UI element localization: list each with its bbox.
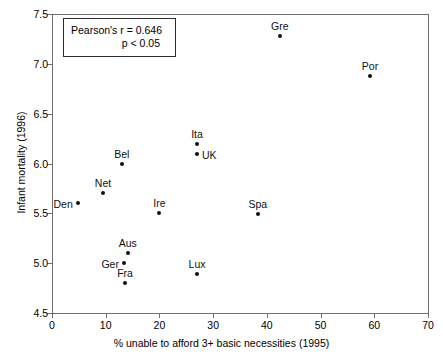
data-point-aus (126, 251, 130, 255)
data-point-label-lux: Lux (189, 259, 206, 270)
y-axis-line (52, 14, 53, 314)
x-tick-mark (213, 313, 214, 318)
data-point-ita (195, 142, 199, 146)
x-axis-title: % unable to afford 3+ basic necessities … (0, 338, 443, 349)
x-tick-label: 70 (422, 320, 434, 331)
y-tick-label: 5.0 (33, 258, 48, 269)
x-tick-mark (159, 313, 160, 318)
data-point-spa (256, 212, 260, 216)
y-tick-label: 4.5 (33, 308, 48, 319)
x-tick-label: 0 (49, 320, 55, 331)
x-tick-mark (267, 313, 268, 318)
plot-top-border (52, 14, 429, 15)
x-tick-label: 10 (100, 320, 112, 331)
data-point-label-aus: Aus (119, 238, 137, 249)
y-axis-title: Infant mortality (1996) (16, 53, 27, 273)
data-point-bel (120, 162, 124, 166)
y-tick-label: 7.5 (33, 9, 48, 20)
data-point-label-ire: Ire (153, 198, 165, 209)
data-point-label-net: Net (95, 178, 111, 189)
data-point-label-uk: UK (202, 149, 217, 160)
data-point-den (76, 201, 80, 205)
x-tick-label: 40 (261, 320, 273, 331)
x-tick-mark (106, 313, 107, 318)
data-point-uk (195, 152, 199, 156)
x-axis-line (52, 313, 429, 314)
data-point-ire (157, 211, 161, 215)
data-point-label-gre: Gre (271, 20, 289, 31)
y-tick-label: 6.0 (33, 159, 48, 170)
data-point-label-fra: Fra (117, 268, 133, 279)
p-value-text: p < 0.05 (71, 37, 168, 50)
x-tick-label: 60 (368, 320, 380, 331)
data-point-por (368, 74, 372, 78)
data-point-label-den: Den (54, 199, 73, 210)
y-tick-label: 7.0 (33, 59, 48, 70)
data-point-fra (123, 281, 127, 285)
data-point-label-por: Por (362, 60, 378, 71)
y-tick-label: 5.5 (33, 208, 48, 219)
scatter-plot-figure: 4.55.05.56.06.57.07.5 010203040506070 De… (0, 0, 443, 361)
x-tick-mark (428, 313, 429, 318)
x-tick-label: 20 (154, 320, 166, 331)
plot-right-border (428, 14, 429, 314)
data-point-net (101, 191, 105, 195)
data-point-label-spa: Spa (248, 199, 267, 210)
data-point-gre (278, 34, 282, 38)
statistics-annotation-box: Pearson's r = 0.646 p < 0.05 (63, 18, 176, 57)
data-point-ger (122, 261, 126, 265)
x-tick-label: 30 (207, 320, 219, 331)
y-tick-label: 6.5 (33, 109, 48, 120)
x-tick-mark (52, 313, 53, 318)
data-point-label-bel: Bel (114, 148, 129, 159)
data-point-lux (195, 272, 199, 276)
x-tick-mark (374, 313, 375, 318)
pearson-r-text: Pearson's r = 0.646 (71, 24, 168, 37)
x-tick-label: 50 (315, 320, 327, 331)
data-point-label-ita: Ita (191, 128, 203, 139)
x-tick-mark (321, 313, 322, 318)
